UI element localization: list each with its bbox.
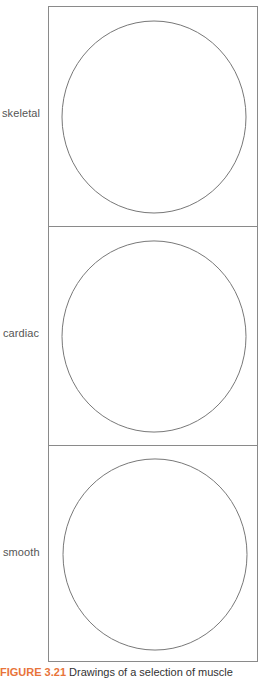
figure-frame <box>48 6 258 662</box>
panel-skeletal <box>49 7 257 226</box>
panel-cardiac <box>49 226 257 445</box>
label-skeletal: skeletal <box>2 107 48 119</box>
circle-drawing-area-skeletal <box>49 7 257 226</box>
caption-text: Drawings of a selection of muscle <box>69 666 233 678</box>
label-smooth: smooth <box>3 546 49 558</box>
label-cardiac: cardiac <box>3 327 49 339</box>
circle-drawing-area-smooth <box>49 446 257 662</box>
figure-number: FIGURE 3.21 <box>0 666 66 678</box>
figure-caption: FIGURE 3.21Drawings of a selection of mu… <box>0 666 233 678</box>
circle-drawing-area-cardiac <box>49 227 257 445</box>
panel-smooth <box>49 445 257 662</box>
